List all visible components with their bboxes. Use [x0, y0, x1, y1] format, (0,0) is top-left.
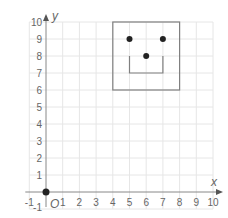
origin-label: O: [50, 197, 59, 211]
y-axis-arrow-icon: [43, 14, 49, 21]
x-tick-label: 1: [60, 197, 66, 208]
y-axis-label: y: [51, 9, 59, 23]
y-tick-label: 8: [36, 51, 42, 62]
y-tick-label: 1: [36, 170, 42, 181]
x-tick-label: 9: [194, 197, 200, 208]
y-tick-label: 7: [36, 68, 42, 79]
y-tick-label: -1: [33, 202, 42, 213]
x-tick-label: 2: [77, 197, 83, 208]
x-tick-label: 8: [177, 197, 183, 208]
y-tick-label: 2: [36, 153, 42, 164]
grid-lines: [29, 22, 213, 209]
x-tick-label: 3: [93, 197, 99, 208]
x-tick-label: 6: [143, 197, 149, 208]
y-tick-label: 5: [36, 102, 42, 113]
y-tick-label: 4: [36, 119, 42, 130]
x-tick-label: 7: [160, 197, 166, 208]
right-eye-point: [160, 36, 166, 42]
y-tick-label: 9: [36, 34, 42, 45]
x-tick-label: 4: [110, 197, 116, 208]
x-tick-label: 10: [207, 197, 219, 208]
axes: [25, 14, 223, 207]
y-tick-label: 6: [36, 85, 42, 96]
y-tick-label: 3: [36, 136, 42, 147]
x-axis-label: x: [210, 175, 218, 189]
x-tick-label: 5: [127, 197, 133, 208]
coordinate-plane: -112345678910-112345678910 x y O: [0, 0, 228, 218]
x-axis-arrow-icon: [216, 189, 223, 195]
origin-point: [43, 189, 50, 196]
tick-labels: -112345678910-112345678910: [25, 17, 219, 213]
nose-point: [143, 53, 149, 59]
left-eye-point: [127, 36, 133, 42]
y-tick-label: 10: [31, 17, 43, 28]
